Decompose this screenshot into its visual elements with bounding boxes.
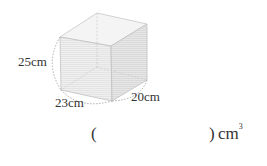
close-paren: ) bbox=[209, 124, 215, 144]
unit-text: cm bbox=[218, 124, 239, 143]
open-paren: ( bbox=[91, 124, 97, 144]
width-label: 23cm bbox=[55, 95, 84, 111]
unit-exponent: 3 bbox=[239, 122, 243, 131]
unit-label: cm3 bbox=[218, 124, 243, 144]
depth-label: 20cm bbox=[131, 89, 160, 105]
height-label: 25cm bbox=[18, 54, 47, 70]
